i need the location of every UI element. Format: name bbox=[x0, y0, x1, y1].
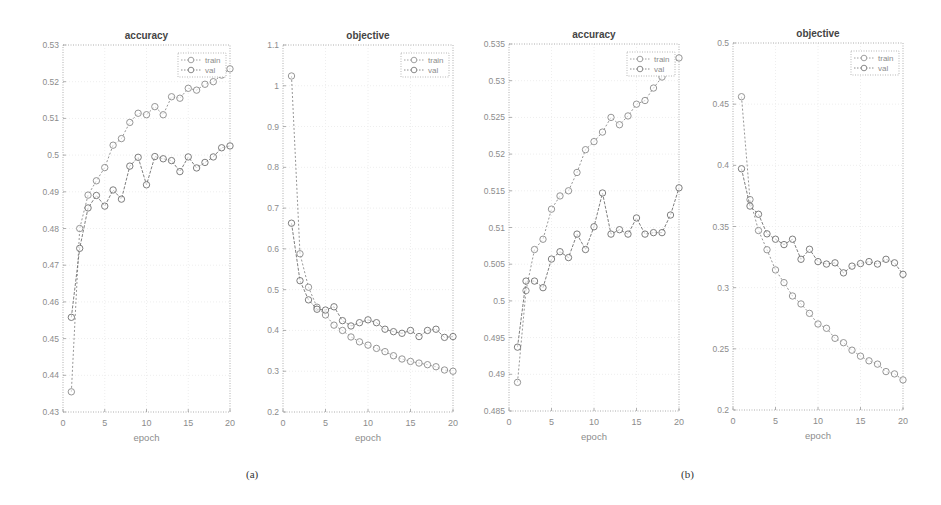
y-tick-label: 0.52 bbox=[42, 77, 59, 87]
data-point-val bbox=[616, 227, 622, 233]
data-point-val bbox=[738, 166, 744, 172]
data-point-train bbox=[77, 225, 83, 231]
data-point-val bbox=[339, 317, 345, 323]
x-tick-label: 10 bbox=[141, 418, 151, 428]
data-point-val bbox=[574, 231, 580, 237]
data-point-train bbox=[781, 279, 787, 285]
legend: trainval bbox=[851, 51, 899, 75]
y-tick-label: 0.7 bbox=[267, 203, 279, 213]
data-point-train bbox=[874, 361, 880, 367]
data-point-train bbox=[135, 110, 141, 116]
data-point-val bbox=[202, 159, 208, 165]
figure: 0.430.440.450.460.470.480.490.50.510.520… bbox=[0, 0, 941, 505]
y-tick-label: 0.43 bbox=[42, 407, 59, 417]
data-point-val bbox=[523, 278, 529, 284]
data-point-train bbox=[738, 94, 744, 100]
data-point-train bbox=[288, 73, 294, 79]
data-point-train bbox=[160, 112, 166, 118]
data-point-train bbox=[676, 55, 682, 61]
data-point-val bbox=[625, 231, 631, 237]
x-tick-label: 0 bbox=[280, 418, 285, 428]
data-point-train bbox=[857, 353, 863, 359]
data-point-val bbox=[93, 192, 99, 198]
x-tick-label: 20 bbox=[448, 418, 458, 428]
data-point-train bbox=[143, 112, 149, 118]
data-point-train bbox=[823, 325, 829, 331]
legend: trainval bbox=[627, 52, 675, 76]
data-point-val bbox=[659, 229, 665, 235]
data-point-val bbox=[305, 297, 311, 303]
chart-2: 0.20.30.40.50.60.70.80.911.105101520obje… bbox=[267, 30, 458, 443]
data-point-train bbox=[574, 169, 580, 175]
data-point-val bbox=[565, 254, 571, 260]
y-tick-label: 0.5 bbox=[47, 150, 59, 160]
y-tick-label: 0.46 bbox=[42, 297, 59, 307]
data-point-train bbox=[441, 367, 447, 373]
y-tick-label: 0.5 bbox=[717, 38, 729, 48]
data-point-val bbox=[77, 245, 83, 251]
data-point-train bbox=[642, 97, 648, 103]
data-point-val bbox=[900, 271, 906, 277]
data-point-val bbox=[531, 278, 537, 284]
data-point-val bbox=[514, 344, 520, 350]
y-tick-label: 0.47 bbox=[42, 260, 59, 270]
chart-1: 0.430.440.450.460.470.480.490.50.510.520… bbox=[42, 30, 235, 443]
data-point-train bbox=[390, 353, 396, 359]
data-point-train bbox=[764, 247, 770, 253]
data-point-train bbox=[373, 345, 379, 351]
data-point-train bbox=[177, 95, 183, 101]
legend-label-val: val bbox=[428, 66, 438, 75]
legend-marker-val bbox=[637, 66, 643, 72]
y-tick-label: 0.48 bbox=[42, 224, 59, 234]
data-point-train bbox=[883, 368, 889, 374]
x-tick-label: 10 bbox=[363, 418, 373, 428]
data-point-val bbox=[441, 334, 447, 340]
data-point-val bbox=[160, 156, 166, 162]
data-point-train bbox=[450, 368, 456, 374]
data-point-val bbox=[297, 277, 303, 283]
x-tick-label: 5 bbox=[102, 418, 107, 428]
series-line-train bbox=[71, 69, 230, 392]
data-point-val bbox=[650, 229, 656, 235]
data-point-val bbox=[331, 304, 337, 310]
y-tick-label: 0.6 bbox=[267, 244, 279, 254]
data-point-train bbox=[416, 360, 422, 366]
data-point-train bbox=[840, 340, 846, 346]
x-axis-label: epoch bbox=[805, 430, 831, 441]
data-point-val bbox=[185, 154, 191, 160]
data-point-train bbox=[849, 347, 855, 353]
x-tick-label: 5 bbox=[549, 417, 554, 427]
data-point-val bbox=[288, 220, 294, 226]
x-tick-label: 0 bbox=[506, 417, 511, 427]
data-point-val bbox=[424, 327, 430, 333]
data-point-train bbox=[185, 85, 191, 91]
y-tick-label: 0.535 bbox=[484, 39, 506, 49]
data-point-val bbox=[348, 323, 354, 329]
data-point-val bbox=[416, 333, 422, 339]
data-point-val bbox=[118, 196, 124, 202]
legend: trainval bbox=[401, 53, 449, 77]
data-point-train bbox=[152, 103, 158, 109]
y-tick-label: 0.495 bbox=[484, 333, 506, 343]
data-point-val bbox=[866, 258, 872, 264]
legend-marker-val bbox=[188, 67, 194, 73]
data-point-val bbox=[168, 157, 174, 163]
data-point-train bbox=[900, 377, 906, 383]
series-line-val bbox=[292, 223, 454, 337]
data-point-val bbox=[832, 260, 838, 266]
data-point-train bbox=[433, 364, 439, 370]
data-point-train bbox=[331, 322, 337, 328]
data-point-val bbox=[667, 212, 673, 218]
data-point-train bbox=[540, 236, 546, 242]
data-point-train bbox=[102, 164, 108, 170]
data-point-val bbox=[433, 326, 439, 332]
data-point-val bbox=[314, 306, 320, 312]
x-tick-label: 5 bbox=[323, 418, 328, 428]
data-point-val bbox=[642, 231, 648, 237]
data-point-train bbox=[297, 251, 303, 257]
data-point-val bbox=[540, 284, 546, 290]
x-axis-label: epoch bbox=[581, 431, 607, 442]
data-point-val bbox=[557, 249, 563, 255]
data-point-train bbox=[565, 188, 571, 194]
data-point-val bbox=[127, 163, 133, 169]
